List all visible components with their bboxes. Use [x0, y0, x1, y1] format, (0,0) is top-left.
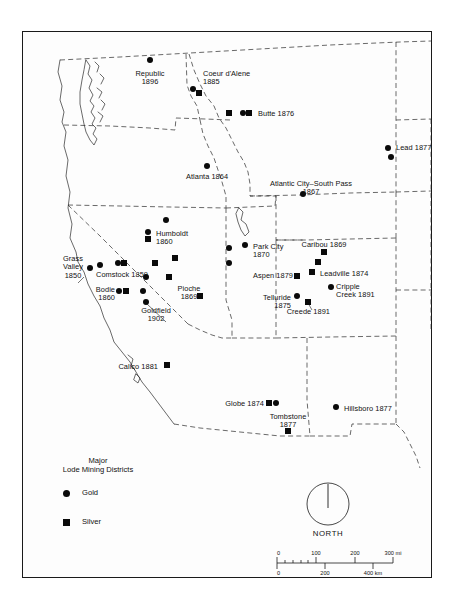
mining-districts-map: Republic 1896Coeur d'Alene 1885Butte 187… [0, 0, 455, 607]
scale-label-miles: 200 [350, 550, 359, 556]
scale-label-miles: 100 [311, 550, 320, 556]
scale-label-miles: 300 mi [385, 550, 402, 556]
scale-label-km: 400 km [364, 570, 382, 576]
scale-label-miles: 0 [277, 550, 280, 556]
scale-label-km: 200 [320, 570, 329, 576]
scale-label-km: 0 [277, 570, 280, 576]
scale-bar [0, 0, 455, 607]
